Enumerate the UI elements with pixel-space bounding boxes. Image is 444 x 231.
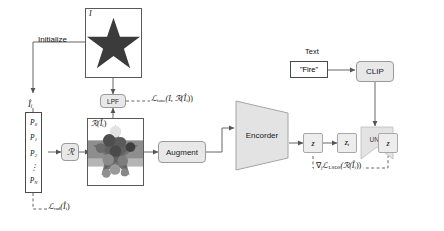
list-item: P0	[30, 119, 37, 128]
parameter-stack: P0 P1 P2 ⋮ PN	[25, 112, 42, 193]
prompt-box[interactable]: "Fire"	[290, 61, 328, 78]
latent-zt-label: zt	[345, 138, 350, 147]
rendered-image-box: ℛ(Îi)	[87, 118, 144, 186]
diagram-canvas: I Initialize Îi P0 P1 P2 ⋮ PN ℛ LPF ℒton…	[0, 0, 444, 231]
arrow-augment-to-encoder	[206, 128, 234, 152]
render-operator-box[interactable]: ℛ	[61, 143, 79, 161]
latent-z-output-label: z	[386, 139, 389, 148]
lpf-box[interactable]: LPF	[100, 94, 126, 108]
rad-loss-label: ℒrad(Îi)	[48, 203, 70, 212]
lpf-label: LPF	[107, 98, 119, 105]
list-item: P1	[30, 134, 37, 143]
augment-label: Augment	[166, 148, 198, 157]
encoder-label: Encorder	[234, 99, 290, 172]
latent-z-label: z	[311, 139, 314, 148]
list-item: P2	[30, 150, 37, 159]
rendered-image-label: ℛ(Îi)	[91, 120, 106, 129]
encoder-box[interactable]: Encorder	[234, 99, 290, 172]
initialize-label: Initialize	[38, 36, 67, 44]
arrow-initialize	[33, 42, 86, 93]
clip-box[interactable]: CLIP	[356, 61, 394, 82]
render-operator-label: ℛ	[67, 147, 74, 157]
input-image-box: I	[85, 8, 142, 78]
latent-z-output-box: z	[378, 133, 398, 153]
latent-z-box: z	[303, 133, 323, 153]
prompt-value: "Fire"	[300, 65, 318, 74]
augment-box[interactable]: Augment	[158, 141, 206, 163]
clip-label: CLIP	[366, 67, 384, 76]
latent-zt-box: zt	[337, 133, 357, 153]
input-image-label: I	[89, 10, 92, 18]
list-ellipsis: ⋮	[30, 165, 38, 171]
text-caption-label: Text	[305, 48, 319, 56]
dash-stack-to-rad-loss	[33, 193, 47, 209]
list-item: PN	[30, 177, 38, 186]
lsds-gradient-label: ∇jℒLSDS(ℛ(Îi))	[314, 162, 363, 171]
tone-loss-label: ℒtone(I, ℛ(Îi))	[151, 95, 193, 104]
init-parameter-label: Îi	[28, 100, 32, 109]
star-silhouette-image	[86, 9, 141, 77]
